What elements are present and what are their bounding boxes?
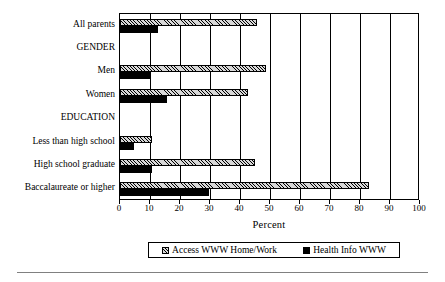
x-tick-label-90: 90 (376, 203, 402, 214)
legend-swatch-solid-icon (303, 247, 310, 254)
bar-access-baccalaureate-or-higher (120, 182, 369, 189)
chart-legend: Access WWW Home/Work Health Info WWW (148, 242, 400, 258)
legend-swatch-hatched-icon (162, 247, 169, 254)
gridline-90 (390, 14, 391, 199)
category-label-baccalaureate-or-higher: Baccalaureate or higher (0, 182, 115, 193)
gridline-20 (180, 14, 181, 199)
category-label-gender: GENDER (0, 42, 115, 53)
gridline-70 (330, 14, 331, 199)
category-label-all-parents: All parents (0, 19, 115, 30)
bar-access-less-than-high-school (120, 136, 152, 143)
x-tick-label-100: 100 (406, 203, 432, 214)
x-tick-label-80: 80 (346, 203, 372, 214)
bar-health-women (120, 96, 167, 103)
category-label-education: EDUCATION (0, 112, 115, 123)
bar-access-all-parents (120, 19, 257, 26)
gridline-50 (270, 14, 271, 199)
legend-label-access: Access WWW Home/Work (172, 245, 277, 255)
x-tick-label-60: 60 (286, 203, 312, 214)
category-label-men: Men (0, 65, 115, 76)
legend-item-access: Access WWW Home/Work (162, 245, 277, 255)
category-label-high-school-graduate: High school graduate (0, 159, 115, 170)
x-tick-label-0: 0 (106, 203, 132, 214)
x-tick-label-20: 20 (166, 203, 192, 214)
bar-access-women (120, 89, 248, 96)
bar-health-less-than-high-school (120, 143, 134, 150)
plot-area (119, 13, 419, 200)
legend-item-health: Health Info WWW (303, 245, 386, 255)
bar-access-high-school-graduate (120, 159, 255, 166)
plot-wrapper: All parentsGENDERMenWomenEDUCATIONLess t… (0, 0, 445, 215)
gridline-30 (210, 14, 211, 199)
x-tick-label-40: 40 (226, 203, 252, 214)
gridline-60 (300, 14, 301, 199)
bar-health-all-parents (120, 26, 158, 33)
x-tick-label-30: 30 (196, 203, 222, 214)
bar-health-high-school-graduate (120, 166, 152, 173)
x-tick-label-10: 10 (136, 203, 162, 214)
bar-health-baccalaureate-or-higher (120, 189, 209, 196)
bottom-divider-rule (17, 272, 428, 273)
gridline-40 (240, 14, 241, 199)
x-tick-label-70: 70 (316, 203, 342, 214)
category-label-women: Women (0, 89, 115, 100)
x-axis-title: Percent (119, 219, 419, 230)
legend-label-health: Health Info WWW (313, 245, 386, 255)
x-tick-label-50: 50 (256, 203, 282, 214)
bar-health-men (120, 72, 150, 79)
gridline-80 (360, 14, 361, 199)
figure-container: All parentsGENDERMenWomenEDUCATIONLess t… (0, 0, 445, 282)
category-label-less-than-high-school: Less than high school (0, 136, 115, 147)
bar-access-men (120, 65, 266, 72)
